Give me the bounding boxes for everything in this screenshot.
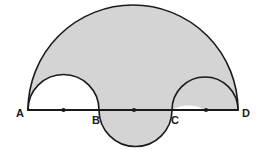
midpoint-dot-AB (61, 108, 65, 112)
midpoint-dot-BC (132, 108, 136, 112)
shaded-lower-region (99, 110, 172, 147)
point-label-A: A (16, 107, 24, 119)
point-label-D: D (242, 107, 250, 119)
geometry-figure: A B C D (0, 0, 262, 150)
point-label-C: C (171, 114, 179, 126)
midpoint-dot-CD (204, 108, 208, 112)
semicircle-diagram-svg: A B C D (0, 0, 262, 150)
point-label-B: B (92, 114, 100, 126)
shaded-upper-region (28, 5, 238, 110)
